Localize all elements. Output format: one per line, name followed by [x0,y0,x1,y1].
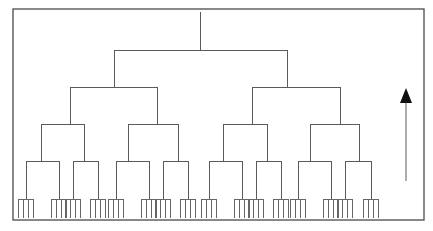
arrow-head [400,88,412,103]
hierarchy-diagram [0,0,433,231]
up-arrow-icon [400,88,412,181]
tree [18,12,379,218]
diagram-frame [13,9,424,220]
